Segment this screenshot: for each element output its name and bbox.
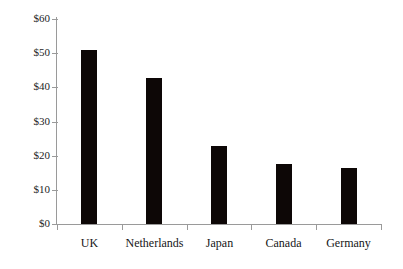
y-axis-tick-label: $30	[0, 116, 50, 127]
y-axis-tick-label: $40	[0, 81, 50, 92]
y-axis-tick	[52, 122, 58, 123]
y-axis-tick	[52, 87, 58, 88]
x-axis-category-label: UK	[57, 236, 122, 250]
y-axis-tick-label-text: $0	[4, 218, 50, 229]
y-axis-tick-label-text: $40	[4, 81, 50, 92]
y-axis-tick-label: $60	[0, 13, 50, 24]
y-axis-tick-label: $0	[0, 218, 50, 229]
x-axis-tick	[57, 224, 58, 230]
y-axis-tick-label: $10	[0, 184, 50, 195]
x-axis-category-label: Japan	[187, 236, 252, 250]
x-axis-tick	[187, 224, 188, 230]
x-axis-category-label: Germany	[316, 236, 381, 250]
y-axis-tick-label-text: $50	[4, 47, 50, 58]
y-axis-tick	[52, 156, 58, 157]
y-axis-tick-label: $50	[0, 47, 50, 58]
bar	[211, 146, 227, 224]
x-axis-tick	[316, 224, 317, 230]
y-axis-tick-label-text: $10	[4, 184, 50, 195]
y-axis-tick-label: $20	[0, 150, 50, 161]
y-axis-tick-label-text: $20	[4, 150, 50, 161]
y-axis-tick-label-text: $60	[4, 13, 50, 24]
x-axis-tick	[381, 224, 382, 230]
bar	[276, 164, 292, 224]
x-axis-category-label: Netherlands	[122, 236, 187, 250]
x-axis-category-label: Canada	[251, 236, 316, 250]
x-axis-line	[57, 224, 382, 225]
bar-chart-figure: $0$10$20$30$40$50$60 UKNetherlandsJapanC…	[0, 0, 403, 269]
bar	[341, 168, 357, 224]
x-axis-tick	[251, 224, 252, 230]
bar	[146, 78, 162, 224]
bar	[81, 50, 97, 224]
y-axis-tick-label-text: $30	[4, 116, 50, 127]
x-axis-tick	[122, 224, 123, 230]
y-axis-tick	[52, 53, 58, 54]
y-axis-tick	[52, 19, 58, 20]
y-axis-tick	[52, 190, 58, 191]
